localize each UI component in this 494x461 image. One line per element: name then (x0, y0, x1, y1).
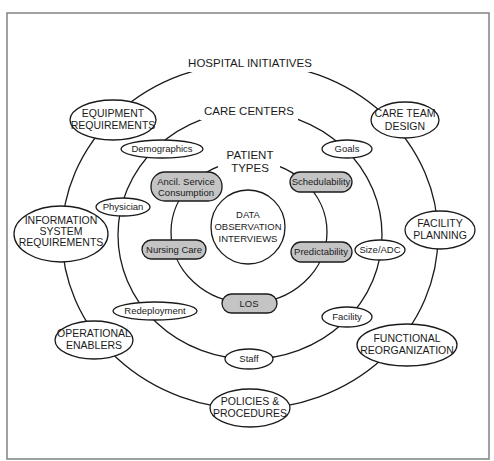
node-goals: Goals (322, 140, 372, 158)
svg-text:CARE TEAM: CARE TEAM (374, 107, 435, 119)
svg-text:Physician: Physician (103, 201, 144, 212)
node-staff: Staff (225, 349, 273, 369)
node-facility: Facility (322, 307, 372, 327)
svg-text:FACILITY: FACILITY (417, 217, 463, 229)
node-redeployment: Redeployment (113, 302, 197, 320)
node-operational-enablers: OPERATIONAL ENABLERS (55, 321, 133, 359)
node-care-team-design: CARE TEAM DESIGN (371, 102, 439, 138)
svg-text:EQUIPMENT: EQUIPMENT (82, 107, 145, 119)
node-functional-reorganization: FUNCTIONAL REORGANIZATION (357, 324, 457, 366)
center-node: DATA OBSERVATION INTERVIEWS (211, 190, 285, 264)
svg-text:Consumption: Consumption (158, 187, 214, 198)
svg-text:REORGANIZATION: REORGANIZATION (360, 344, 454, 356)
svg-text:REQUIREMENTS: REQUIREMENTS (19, 236, 104, 248)
node-information-system-requirements: INFORMATION SYSTEM REQUIREMENTS (14, 206, 108, 262)
svg-text:Nursing Care: Nursing Care (146, 244, 202, 255)
center-line-3: INTERVIEWS (219, 233, 278, 244)
node-demographics: Demographics (121, 140, 203, 158)
ring-title-hospital-initiatives: HOSPITAL INITIATIVES (188, 57, 312, 69)
node-ancil-service-consumption: Ancil. Service Consumption (151, 172, 222, 201)
svg-text:Demographics: Demographics (131, 143, 192, 154)
svg-text:OPERATIONAL: OPERATIONAL (57, 327, 131, 339)
ring-title-patient-types-1: PATIENT (227, 149, 274, 161)
node-policies-procedures: POLICIES & PROCEDURES (210, 389, 290, 427)
node-predictability: Predictability (291, 242, 352, 262)
svg-text:Ancil. Service: Ancil. Service (157, 176, 215, 187)
center-line-2: OBSERVATION (214, 221, 281, 232)
svg-text:DESIGN: DESIGN (385, 120, 425, 132)
svg-text:Schedulability: Schedulability (292, 176, 351, 187)
ring-title-care-centers: CARE CENTERS (204, 105, 294, 117)
node-schedulability: Schedulability (290, 172, 352, 192)
svg-text:Redeployment: Redeployment (124, 305, 186, 316)
node-equipment-requirements: EQUIPMENT REQUIREMENTS (70, 100, 156, 140)
node-size-adc: Size/ADC (355, 240, 405, 260)
svg-text:LOS: LOS (239, 298, 258, 309)
svg-text:Staff: Staff (239, 353, 259, 364)
node-physician: Physician (96, 198, 150, 216)
node-facility-planning: FACILITY PLANNING (405, 211, 475, 249)
svg-text:PROCEDURES: PROCEDURES (213, 407, 287, 419)
node-nursing-care: Nursing Care (142, 240, 206, 259)
svg-text:POLICIES &: POLICIES & (221, 395, 279, 407)
svg-text:PLANNING: PLANNING (413, 229, 467, 241)
center-line-1: DATA (236, 209, 261, 220)
svg-text:Size/ADC: Size/ADC (359, 244, 400, 255)
ring-title-patient-types-2: TYPES (231, 162, 269, 174)
svg-text:ENABLERS: ENABLERS (66, 339, 122, 351)
svg-text:Facility: Facility (332, 311, 362, 322)
svg-text:REQUIREMENTS: REQUIREMENTS (71, 119, 156, 131)
svg-text:FUNCTIONAL: FUNCTIONAL (373, 332, 440, 344)
concentric-diagram: HOSPITAL INITIATIVES CARE CENTERS PATIEN… (0, 0, 494, 461)
svg-text:Predictability: Predictability (294, 246, 348, 257)
node-los: LOS (222, 294, 277, 313)
svg-text:Goals: Goals (335, 143, 360, 154)
